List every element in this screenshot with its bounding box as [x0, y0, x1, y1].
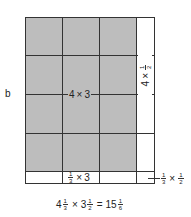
corner-den-a: 3	[162, 179, 165, 185]
eq-b-num: 1	[87, 198, 92, 205]
grid-line-left	[25, 17, 26, 184]
equation: 4 1 3 × 3 1 2 = 15 1 6	[56, 197, 124, 211]
eq-b-frac: 1 2	[87, 198, 92, 211]
grid-line-bottom	[25, 183, 154, 184]
eq-a-frac: 1 3	[63, 198, 68, 211]
eq-r-num: 1	[118, 198, 123, 205]
right-label-den: 2	[146, 66, 152, 69]
bottom-strip-label: 1 3 × 3	[66, 172, 91, 183]
grid-line-v2	[99, 17, 100, 184]
corner-den-b: 2	[179, 179, 182, 185]
eq-op: ×	[72, 199, 78, 210]
right-column-label: 4 × 1 2	[138, 54, 152, 96]
eq-a-num: 1	[63, 198, 68, 205]
eq-a-whole: 4	[56, 199, 62, 210]
eq-r-den: 6	[119, 205, 122, 211]
center-label-b: 3	[84, 89, 90, 100]
bottom-label-whole: 3	[84, 172, 90, 183]
grid-line-h1	[25, 55, 154, 56]
bottom-label-frac: 1 3	[68, 171, 73, 184]
center-label: 4 × 3	[68, 88, 91, 100]
right-label-op: ×	[140, 73, 151, 79]
corner-label-frac-a: 1 3	[161, 172, 166, 185]
corner-label: 1 3 × 1 2	[160, 172, 185, 185]
bottom-label-op: ×	[76, 172, 82, 183]
eq-a-den: 3	[64, 205, 67, 211]
right-label-whole: 4	[140, 81, 151, 87]
bottom-label-num: 1	[68, 171, 73, 178]
corner-num-b: 1	[178, 172, 183, 179]
panel-label: b	[5, 88, 11, 99]
right-label-frac: 1 2	[139, 65, 152, 70]
center-label-op: ×	[77, 89, 83, 100]
grid-line-h3	[25, 133, 154, 134]
bottom-label-den: 3	[69, 178, 72, 184]
grid-line-v1	[62, 17, 63, 184]
eq-b-whole: 3	[81, 199, 87, 210]
corner-leader-line	[148, 178, 160, 179]
eq-r-whole: 15	[106, 199, 117, 210]
corner-label-op: ×	[169, 173, 175, 184]
eq-equals: =	[97, 199, 103, 210]
grid-line-top	[25, 17, 154, 18]
corner-label-frac-b: 1 2	[178, 172, 183, 185]
grid-line-v3	[136, 17, 137, 184]
center-label-a: 4	[69, 89, 75, 100]
grid-line-right	[154, 17, 155, 184]
eq-b-den: 2	[88, 205, 91, 211]
eq-r-frac: 1 6	[118, 198, 123, 211]
corner-num-a: 1	[161, 172, 166, 179]
right-label-num: 1	[139, 65, 146, 70]
